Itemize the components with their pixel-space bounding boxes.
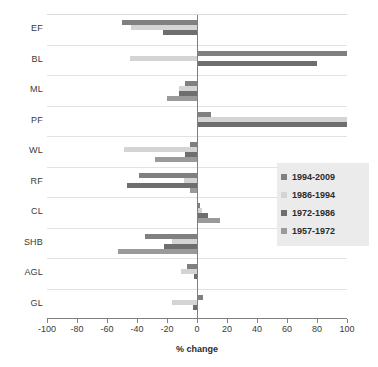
y-axis-category-labels: EFBLMLPFWLRFCLSHBAGLGL	[0, 14, 43, 319]
legend-item: 1957-1972	[281, 222, 365, 240]
y-axis-label-bl: BL	[0, 54, 43, 64]
legend-label: 1972-1986	[292, 208, 335, 218]
bar	[197, 61, 317, 66]
bar	[163, 30, 198, 35]
zero-axis-line	[197, 15, 198, 318]
x-axis-tick	[287, 319, 288, 323]
y-axis-label-ml: ML	[0, 84, 43, 94]
bar	[197, 122, 347, 127]
bar-chart: EFBLMLPFWLRFCLSHBAGLGL -100-80-60-40-200…	[0, 0, 378, 367]
bar	[127, 183, 198, 188]
x-axis-tick	[257, 319, 258, 323]
legend-item: 1994-2009	[281, 168, 365, 186]
x-axis-tick	[167, 319, 168, 323]
y-axis-label-rf: RF	[0, 176, 43, 186]
y-axis-label-ef: EF	[0, 23, 43, 33]
bar	[155, 157, 197, 162]
legend-label: 1994-2009	[292, 172, 335, 182]
legend-swatch-icon	[281, 210, 287, 216]
y-axis-label-agl: AGL	[0, 267, 43, 277]
x-axis-tick	[317, 319, 318, 323]
legend-swatch-icon	[281, 228, 287, 234]
x-axis-title: % change	[47, 344, 347, 354]
legend-label: 1957-1972	[292, 226, 335, 236]
y-axis-label-shb: SHB	[0, 237, 43, 247]
legend-item: 1972-1986	[281, 204, 365, 222]
x-axis-tick	[47, 319, 48, 323]
bar	[197, 218, 220, 223]
legend-swatch-icon	[281, 192, 287, 198]
bar	[118, 249, 198, 254]
x-axis-tick	[107, 319, 108, 323]
x-axis-tick	[197, 319, 198, 323]
legend-item: 1986-1994	[281, 186, 365, 204]
x-axis-tick	[77, 319, 78, 323]
y-axis-label-wl: WL	[0, 145, 43, 155]
x-axis-tick	[347, 319, 348, 323]
y-axis-label-gl: GL	[0, 298, 43, 308]
legend-label: 1986-1994	[292, 190, 335, 200]
x-axis-tick-label: 100	[327, 324, 367, 334]
chart-legend: 1994-20091986-19941972-19861957-1972	[277, 163, 369, 246]
legend-swatch-icon	[281, 174, 287, 180]
x-axis-tick	[137, 319, 138, 323]
bar	[190, 188, 198, 193]
x-axis-tick	[227, 319, 228, 323]
bar	[130, 56, 198, 61]
x-axis: -100-80-60-40-20020406080100	[47, 319, 347, 341]
y-axis-label-cl: CL	[0, 206, 43, 216]
bar	[197, 51, 347, 56]
bar	[167, 96, 197, 101]
y-axis-label-pf: PF	[0, 115, 43, 125]
